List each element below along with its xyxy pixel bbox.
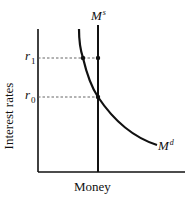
demand-point-r1	[81, 56, 85, 60]
money-supply-label: Ms	[91, 9, 106, 22]
tick-label-r1: r1	[25, 49, 36, 62]
y-axis-label: Interest rates	[2, 83, 15, 150]
money-demand-label: Md	[158, 139, 174, 152]
money-demand-curve	[79, 29, 157, 145]
x-axis-label: Money	[74, 180, 111, 193]
equilibrium-point-r0	[96, 95, 100, 99]
diagram-graphic	[0, 0, 195, 209]
supply-point-r1	[96, 56, 100, 60]
tick-label-r0: r0	[25, 88, 36, 101]
money-market-diagram: Ms Md r1 r0 Interest rates Money	[0, 0, 195, 209]
